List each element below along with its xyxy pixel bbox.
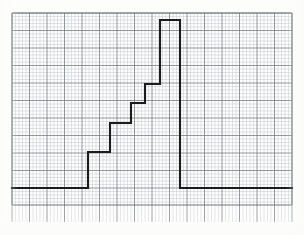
- paper-surface: [0, 0, 304, 235]
- graph-paper-scan: [0, 0, 304, 235]
- bottom-tick-strip: [12, 205, 292, 222]
- graph-plot: [0, 0, 304, 235]
